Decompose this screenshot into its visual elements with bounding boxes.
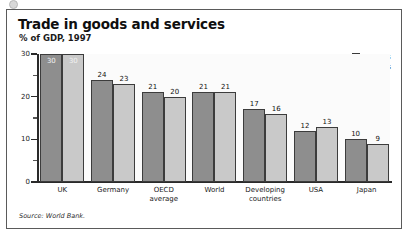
x-axis-category-label: Japan <box>341 186 392 195</box>
bar-column: 23 <box>113 54 135 182</box>
y-axis-tick <box>31 181 37 182</box>
bar-exports[interactable] <box>294 131 316 182</box>
bar-column: 30 <box>62 54 84 182</box>
bar-group: 1716 <box>240 54 291 182</box>
chart-figure-frame: Trade in goods and services % of GDP, 19… <box>6 9 402 229</box>
bar-exports[interactable]: 30 <box>40 54 62 182</box>
bar-column: 21 <box>192 54 214 182</box>
x-axis-category-label: Germany <box>88 186 139 195</box>
x-axis-category-label: OECDaverage <box>138 186 189 203</box>
bar-group: 109 <box>341 54 392 182</box>
x-axis-category-label: UK <box>37 186 88 195</box>
y-axis-tick <box>31 96 37 97</box>
y-axis: 0102030 <box>7 10 30 237</box>
bar-exports[interactable] <box>91 80 113 182</box>
bars-layer: 303024232120212117161213109 <box>37 54 392 182</box>
bar-column: 21 <box>214 54 236 182</box>
bar-group: 1213 <box>291 54 342 182</box>
bar-value-label: 23 <box>109 75 139 83</box>
y-axis-tick-label: 10 <box>8 135 30 143</box>
x-axis-category-label: World <box>189 186 240 195</box>
bar-imports[interactable] <box>164 97 186 182</box>
bar-imports[interactable] <box>113 84 135 182</box>
bar-group: 2423 <box>88 54 139 182</box>
bar-column: 24 <box>91 54 113 182</box>
bar-value-label: 13 <box>312 118 342 126</box>
bar-imports[interactable]: 30 <box>62 54 84 182</box>
bar-value-label: 21 <box>210 83 240 91</box>
bar-exports[interactable] <box>142 92 164 182</box>
y-axis-tick <box>31 139 37 140</box>
y-axis-minor-tick <box>33 117 37 118</box>
y-axis-tick-label: 20 <box>8 93 30 101</box>
bar-value-label: 30 <box>63 57 83 65</box>
y-axis-minor-tick <box>33 75 37 76</box>
y-axis-tick-label: 30 <box>8 50 30 58</box>
bar-value-label: 9 <box>363 135 393 143</box>
bar-value-label: 16 <box>261 105 291 113</box>
bar-column: 16 <box>265 54 287 182</box>
bar-imports[interactable] <box>367 144 389 182</box>
bar-column: 17 <box>243 54 265 182</box>
y-axis-minor-tick <box>33 160 37 161</box>
bar-column: 9 <box>367 54 389 182</box>
bar-imports[interactable] <box>316 127 338 182</box>
bar-column: 13 <box>316 54 338 182</box>
bar-group: 2121 <box>189 54 240 182</box>
x-axis-category-label: USA <box>291 186 342 195</box>
bar-column: 10 <box>345 54 367 182</box>
bar-imports[interactable] <box>214 92 236 182</box>
page-artifact-dot <box>9 0 18 9</box>
bar-column: 20 <box>164 54 186 182</box>
bar-group: 2120 <box>138 54 189 182</box>
bar-value-label: 30 <box>41 57 61 65</box>
bar-column: 30 <box>40 54 62 182</box>
bar-group: 3030 <box>37 54 88 182</box>
bar-exports[interactable] <box>192 92 214 182</box>
bar-imports[interactable] <box>265 114 287 182</box>
x-axis-category-label: Developingcountries <box>240 186 291 203</box>
bar-exports[interactable] <box>243 109 265 182</box>
bar-exports[interactable] <box>345 139 367 182</box>
bar-value-label: 20 <box>160 88 190 96</box>
bar-column: 21 <box>142 54 164 182</box>
chart-title: Trade in goods and services <box>18 16 225 32</box>
y-axis-tick-label: 0 <box>8 178 30 186</box>
y-axis-tick <box>31 53 37 54</box>
x-axis-labels: UKGermanyOECDaverageWorldDevelopingcount… <box>37 186 392 212</box>
source-note: Source: World Bank. <box>19 212 85 220</box>
